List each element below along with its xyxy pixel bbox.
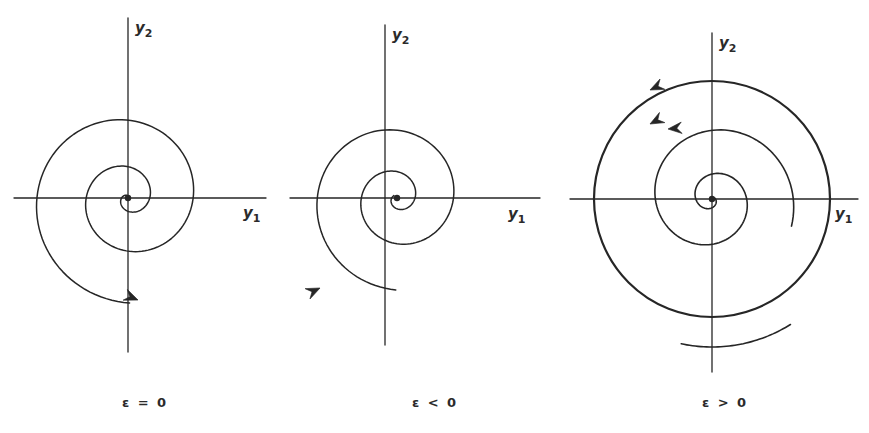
incoming-arc (681, 325, 790, 347)
equilibrium-point (709, 196, 715, 202)
hopf-bifurcation-figure: y1y2ε = 0y1y2ε < 0y1y2ε > 0 (0, 0, 869, 433)
x-axis-label: y1 (835, 206, 852, 225)
y-axis-label: y2 (719, 35, 736, 54)
panel-caption-epsilon-positive: ε > 0 (580, 395, 869, 410)
panel-epsilon-positive: y1y2ε > 0 (0, 0, 869, 433)
x-axis-label-base: y (835, 205, 845, 223)
y-axis-label-subscript: 2 (729, 42, 737, 55)
limit-cycle-arrow-icon (647, 112, 665, 129)
x-axis-label-subscript: 1 (845, 213, 853, 226)
y-axis-label-base: y (719, 34, 729, 52)
spiral-trajectory (655, 130, 794, 245)
panel-epsilon-positive-canvas (0, 0, 869, 433)
inner-spiral-arrow-icon (668, 122, 683, 135)
